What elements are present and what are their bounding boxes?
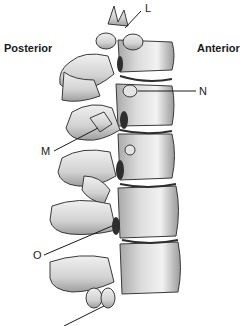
leader-line-bottom bbox=[64, 306, 104, 326]
label-O: O bbox=[33, 249, 42, 261]
label-N: N bbox=[199, 85, 207, 97]
leader-line-L bbox=[125, 11, 141, 28]
vertebrae-illustration bbox=[0, 0, 240, 326]
label-L: L bbox=[145, 2, 151, 14]
label-M: M bbox=[41, 145, 50, 157]
